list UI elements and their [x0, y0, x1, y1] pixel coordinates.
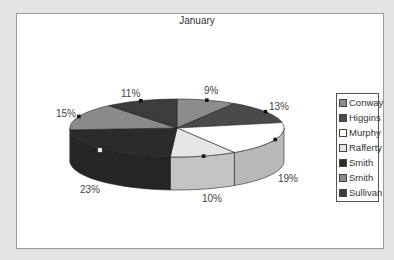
slice-handle-icon [205, 98, 209, 102]
legend-label: Conway [349, 97, 383, 108]
label-conway: 9% [204, 85, 218, 96]
legend-label: Sullivan [349, 187, 382, 198]
slice-handle-icon [202, 154, 206, 158]
legend-label: Smith [349, 172, 373, 183]
legend-swatch [339, 189, 347, 197]
legend-swatch [339, 144, 347, 152]
label-higgins: 13% [269, 101, 289, 112]
slice-handle-icon [264, 110, 268, 114]
legend-swatch [339, 99, 347, 107]
legend-label: Rafferty [349, 142, 382, 153]
slice-handle-icon [139, 99, 143, 103]
legend-item-murphy[interactable]: Murphy [339, 125, 376, 140]
legend-item-smith-2[interactable]: Smith [339, 170, 376, 185]
legend-swatch [339, 159, 347, 167]
legend-swatch [339, 174, 347, 182]
slice-handle-icon [77, 115, 81, 119]
selected-point-marker-icon [98, 148, 102, 152]
label-sullivan: 11% [121, 88, 140, 99]
legend-swatch [339, 129, 347, 137]
label-murphy: 19% [278, 173, 298, 184]
legend-label: Higgins [349, 112, 381, 123]
legend: Conway Higgins Murphy Rafferty Smith Smi… [336, 93, 379, 202]
legend-swatch [339, 114, 347, 122]
legend-item-conway[interactable]: Conway [339, 95, 376, 110]
legend-item-sullivan[interactable]: Sullivan [339, 185, 376, 200]
legend-item-smith-1[interactable]: Smith [339, 155, 376, 170]
label-smith-1: 23% [80, 184, 100, 195]
slice-side-rafferty [170, 152, 234, 190]
slice-handle-icon [273, 138, 277, 142]
label-smith-2: 15% [56, 108, 76, 119]
legend-item-higgins[interactable]: Higgins [339, 110, 376, 125]
legend-label: Smith [349, 157, 373, 168]
legend-item-rafferty[interactable]: Rafferty [339, 140, 376, 155]
pie-chart[interactable] [0, 0, 394, 260]
label-rafferty: 10% [202, 193, 222, 204]
legend-label: Murphy [349, 127, 381, 138]
